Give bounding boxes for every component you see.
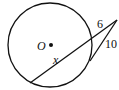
center-label: O	[37, 39, 46, 53]
tangent-segment-label: 10	[105, 37, 117, 51]
secant-tangent-diagram: O x 6 10	[0, 0, 119, 90]
external-segment-label: 6	[97, 17, 103, 31]
center-point	[49, 43, 53, 47]
internal-segment-label: x	[52, 53, 59, 67]
